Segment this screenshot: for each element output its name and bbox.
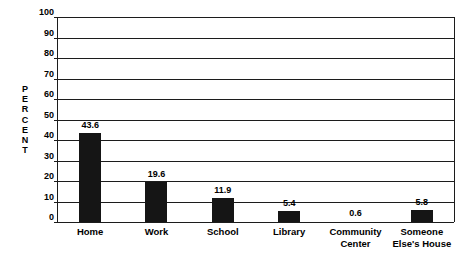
bar — [79, 133, 101, 222]
y-axis-tick-mark — [54, 58, 58, 59]
y-axis-tick-mark — [54, 161, 58, 162]
y-axis-tick-label: 40 — [33, 131, 54, 140]
bar-group: 43.6 — [57, 17, 123, 222]
bar-value-label: 0.6 — [349, 209, 362, 218]
x-axis-tick-label-line: Work — [145, 226, 169, 238]
bar-value-label: 11.9 — [214, 186, 231, 195]
bar-value-label: 19.6 — [148, 170, 166, 179]
x-axis-tick-label: CommunityCenter — [329, 226, 381, 249]
y-axis-tick-mark — [54, 181, 58, 182]
x-axis-tick-label: Home — [77, 226, 103, 238]
bar-group: 19.6 — [123, 17, 189, 222]
bar-group: 11.9 — [190, 17, 256, 222]
y-axis-tick-mark — [54, 222, 58, 223]
x-axis-tick-label-line: Else's House — [392, 238, 451, 250]
x-axis-tick-label-line: Home — [77, 226, 103, 238]
bar — [212, 198, 234, 222]
y-axis-tick-label: 20 — [33, 172, 54, 181]
bar-group: 5.4 — [256, 17, 322, 222]
x-axis-tick-label-line: Community — [329, 226, 381, 238]
y-axis-tick-label: 70 — [33, 69, 54, 78]
bar-group: 5.8 — [389, 17, 455, 222]
y-axis-title: PERCENT — [18, 84, 32, 155]
y-axis-title-letter: C — [18, 115, 32, 125]
y-axis-title-letter: E — [18, 94, 32, 104]
bar-group: 0.6 — [322, 17, 388, 222]
x-axis-tick-label: School — [207, 226, 239, 238]
bars-layer: 43.619.611.95.40.65.8 — [57, 17, 455, 222]
x-axis-tick-labels: HomeWorkSchoolLibraryCommunityCenterSome… — [57, 226, 455, 260]
x-axis-tick-label: Library — [273, 226, 305, 238]
y-axis-tick-labels: 1009080706050403020100 — [33, 12, 54, 222]
bar-value-label: 5.4 — [283, 199, 296, 208]
x-axis-tick-label-line: Center — [329, 238, 381, 250]
y-axis-title-letter: E — [18, 125, 32, 135]
bar-value-label: 5.8 — [416, 198, 429, 207]
y-axis-tick-label: 10 — [33, 192, 54, 201]
bar — [278, 211, 300, 222]
y-axis-title-letter: R — [18, 104, 32, 114]
x-axis-tick-label: SomeoneElse's House — [392, 226, 451, 249]
x-axis-tick-label-line: Library — [273, 226, 305, 238]
x-axis-tick-label: Work — [145, 226, 169, 238]
bar-chart: PERCENT 1009080706050403020100 43.619.61… — [0, 0, 475, 260]
y-axis-tick-label: 30 — [33, 151, 54, 160]
y-axis-tick-mark — [54, 79, 58, 80]
y-axis-tick-mark — [54, 99, 58, 100]
bar — [145, 182, 167, 222]
y-axis-tick-label: 100 — [33, 8, 54, 17]
y-axis-tick-label: 80 — [33, 49, 54, 58]
y-axis-tick-mark — [54, 202, 58, 203]
y-axis-title-letter: N — [18, 135, 32, 145]
x-axis-tick-label-line: Someone — [392, 226, 451, 238]
y-axis-title-letter: T — [18, 145, 32, 155]
gridline — [58, 222, 454, 223]
x-axis-tick-label-line: School — [207, 226, 239, 238]
y-axis-tick-mark — [54, 140, 58, 141]
bar — [411, 210, 433, 222]
y-axis-tick-label: 90 — [33, 28, 54, 37]
y-axis-tick-mark — [54, 120, 58, 121]
y-axis-tick-label: 50 — [33, 110, 54, 119]
y-axis-tick-mark — [54, 17, 58, 18]
y-axis-tick-mark — [54, 38, 58, 39]
y-axis-tick-label: 60 — [33, 90, 54, 99]
y-axis-tick-label: 0 — [33, 213, 54, 222]
y-axis-title-letter: P — [18, 84, 32, 94]
bar-value-label: 43.6 — [81, 121, 99, 130]
